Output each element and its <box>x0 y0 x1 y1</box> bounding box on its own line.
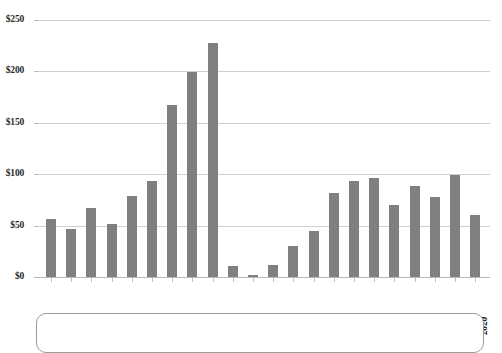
x-tickmark <box>71 278 72 282</box>
x-tickmark <box>273 278 274 282</box>
bar-2019 <box>450 175 460 277</box>
y-tickmark <box>34 226 38 227</box>
y-axis-tick-label: $100 <box>0 168 24 178</box>
bar-2020 <box>470 215 480 277</box>
x-tickmark <box>213 278 214 282</box>
bar-2018 <box>430 197 440 277</box>
x-tickmark <box>132 278 133 282</box>
bar-2012 <box>309 231 319 277</box>
bar-2009 <box>248 275 258 277</box>
x-tickmark <box>394 278 395 282</box>
bar-2011 <box>288 246 298 277</box>
bar-2010 <box>268 265 278 277</box>
bar-2015 <box>369 178 379 277</box>
y-tickmark <box>34 71 38 72</box>
x-tickmark <box>314 278 315 282</box>
y-tickmark <box>34 20 38 21</box>
x-tickmark <box>233 278 234 282</box>
bar-2000 <box>66 229 76 277</box>
bar-2001 <box>86 208 96 277</box>
y-axis-tick-label: $200 <box>0 65 24 75</box>
x-tickmark <box>374 278 375 282</box>
x-tickmark <box>455 278 456 282</box>
x-tickmark <box>293 278 294 282</box>
x-tickmark <box>354 278 355 282</box>
bar-2017 <box>410 186 420 277</box>
x-tickmark <box>91 278 92 282</box>
x-tickmark <box>192 278 193 282</box>
gridline-usd-250 <box>38 20 490 21</box>
gridline-usd-0 <box>38 277 490 278</box>
y-axis-tick-label: $50 <box>0 220 24 230</box>
x-tickmark <box>435 278 436 282</box>
bar-2016 <box>389 205 399 277</box>
bar-1999 <box>46 219 56 277</box>
bar-2014 <box>349 181 359 277</box>
x-tickmark <box>152 278 153 282</box>
plot-area: $250$200$150$100$50$0 <box>38 14 490 283</box>
y-axis-tick-label: $150 <box>0 117 24 127</box>
bar-2008 <box>228 266 238 277</box>
y-axis-tick-label: $0 <box>0 271 24 281</box>
bar-2004 <box>147 181 157 277</box>
x-tickmark <box>415 278 416 282</box>
x-tickmark <box>334 278 335 282</box>
gridline-usd-150 <box>38 123 490 124</box>
x-tickmark <box>112 278 113 282</box>
bar-2002 <box>107 224 117 277</box>
y-axis-tick-label: $250 <box>0 14 24 24</box>
gridline-usd-200 <box>38 71 490 72</box>
bar-2013 <box>329 193 339 277</box>
y-tickmark <box>34 123 38 124</box>
y-tickmark <box>34 174 38 175</box>
caption-box <box>36 313 484 353</box>
bar-2007 <box>208 43 218 277</box>
x-tickmark <box>475 278 476 282</box>
x-tickmark <box>253 278 254 282</box>
x-tickmark <box>51 278 52 282</box>
bar-2005 <box>167 105 177 277</box>
x-tickmark <box>172 278 173 282</box>
gridline-usd-100 <box>38 174 490 175</box>
bar-2006 <box>187 72 197 277</box>
y-tickmark <box>34 277 38 278</box>
bar-2003 <box>127 196 137 277</box>
